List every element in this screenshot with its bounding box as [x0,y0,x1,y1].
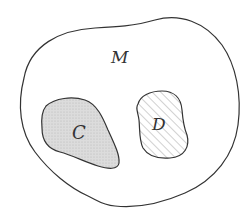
label-c: C [72,122,86,143]
set-diagram: M C D [0,0,250,223]
label-d: D [151,114,166,134]
label-m: M [110,47,129,67]
